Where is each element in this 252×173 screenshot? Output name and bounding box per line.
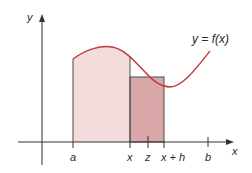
tick-label-x-plus-h: x + h <box>161 152 185 163</box>
tick-label-a: a <box>70 152 76 163</box>
curve-label: y = f(x) <box>192 33 229 45</box>
tick-label-x: x <box>127 152 133 163</box>
y-axis-label: y <box>27 12 33 23</box>
y-axis-arrow-icon <box>39 14 45 22</box>
tick-label-z: z <box>145 152 151 163</box>
tick-label-b: b <box>205 152 211 163</box>
rectangle-x-to-x-plus-h <box>130 77 164 142</box>
area-under-curve-a-to-x <box>73 47 130 142</box>
x-axis-label: x <box>232 146 238 157</box>
integral-diagram <box>0 0 252 173</box>
